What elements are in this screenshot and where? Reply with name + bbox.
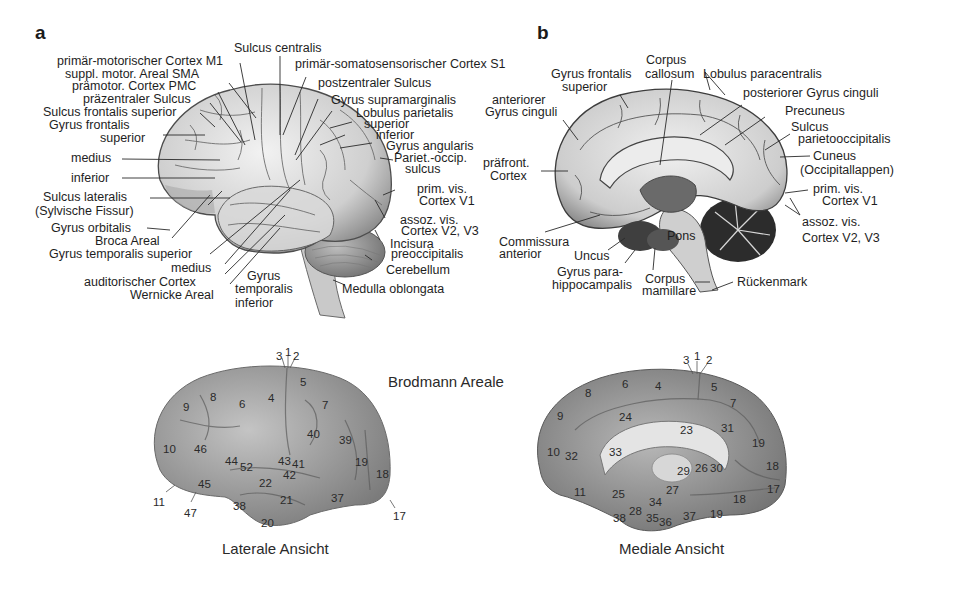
brodmann-area-34: 34 (649, 496, 662, 508)
brodmann-area-27: 27 (666, 484, 679, 496)
brodmann-area-10: 10 (547, 446, 560, 458)
brodmann-area-2: 2 (293, 350, 299, 362)
brodmann-area-10: 10 (163, 443, 176, 455)
brodmann-area-7: 7 (322, 399, 328, 411)
brodmann-area-28: 28 (629, 505, 642, 517)
brodmann-area-37: 37 (331, 492, 344, 504)
brodmann-area-26: 26 (695, 462, 708, 474)
brodmann-area-20: 20 (261, 517, 274, 529)
medial-caption: Mediale Ansicht (619, 540, 724, 557)
brodmann-area-19: 19 (710, 508, 723, 520)
brodmann-area-17: 17 (393, 510, 406, 522)
brodmann-area-39: 39 (339, 434, 352, 446)
brodmann-area-11: 11 (153, 496, 165, 508)
lateral-caption: Laterale Ansicht (222, 540, 329, 557)
brodmann-area-17: 17 (767, 483, 780, 495)
brodmann-area-8: 8 (210, 391, 216, 403)
brodmann-area-21: 21 (280, 494, 293, 506)
brodmann-area-2: 2 (706, 354, 712, 366)
brodmann-area-4: 4 (655, 380, 661, 392)
brodmann-area-38: 38 (613, 512, 626, 524)
brodmann-area-36: 36 (659, 516, 672, 528)
brodmann-area-18: 18 (733, 493, 746, 505)
brodmann-area-30: 30 (710, 462, 723, 474)
brodmann-area-45: 45 (198, 478, 211, 490)
brodmann-area-46: 46 (194, 443, 207, 455)
brodmann-area-5: 5 (711, 381, 717, 393)
brodmann-area-6: 6 (239, 398, 245, 410)
brodmann-area-40: 40 (307, 428, 320, 440)
brodmann-area-22: 22 (259, 477, 272, 489)
brodmann-area-38: 38 (233, 500, 246, 512)
brodmann-area-9: 9 (183, 401, 189, 413)
brodmann-area-1: 1 (285, 346, 291, 358)
brodmann-area-5: 5 (300, 376, 306, 388)
brodmann-area-7: 7 (730, 397, 736, 409)
brodmann-area-9: 9 (557, 410, 563, 422)
brodmann-area-31: 31 (721, 422, 734, 434)
brodmann-area-4: 4 (268, 392, 274, 404)
brodmann-brain-illustrations (0, 0, 955, 593)
brodmann-area-19: 19 (752, 437, 765, 449)
brodmann-area-24: 24 (619, 411, 632, 423)
brodmann-area-18: 18 (766, 460, 779, 472)
brodmann-area-47: 47 (184, 507, 197, 519)
brodmann-area-43: 43 (278, 455, 291, 467)
brodmann-area-44: 44 (225, 455, 238, 467)
brodmann-area-6: 6 (622, 378, 628, 390)
brodmann-area-37: 37 (683, 510, 696, 522)
brodmann-area-18: 18 (376, 468, 389, 480)
brodmann-area-42: 42 (283, 469, 296, 481)
brodmann-area-35: 35 (646, 512, 659, 524)
brodmann-title: Brodmann Areale (388, 373, 504, 390)
brodmann-area-33: 33 (609, 446, 622, 458)
brodmann-area-1: 1 (694, 350, 700, 362)
brodmann-area-32: 32 (565, 450, 578, 462)
brodmann-area-8: 8 (585, 387, 591, 399)
brodmann-area-11: 11 (574, 486, 586, 498)
brodmann-area-23: 23 (680, 424, 693, 436)
brodmann-area-29: 29 (677, 465, 690, 477)
brodmann-area-19: 19 (355, 456, 368, 468)
brodmann-area-52: 52 (240, 461, 253, 473)
brodmann-area-25: 25 (612, 488, 625, 500)
brodmann-area-3: 3 (683, 354, 689, 366)
brodmann-area-3: 3 (276, 350, 282, 362)
